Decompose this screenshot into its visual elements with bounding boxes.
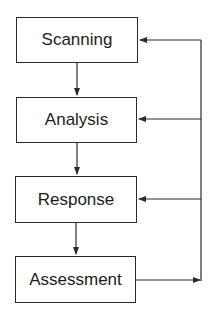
node-label: Scanning — [42, 30, 113, 50]
node-response: Response — [15, 176, 137, 223]
node-label: Assessment — [29, 270, 122, 290]
node-label: Response — [38, 190, 115, 210]
node-assessment: Assessment — [15, 256, 136, 303]
node-label: Analysis — [45, 110, 108, 130]
node-analysis: Analysis — [16, 97, 137, 143]
node-scanning: Scanning — [16, 17, 138, 63]
